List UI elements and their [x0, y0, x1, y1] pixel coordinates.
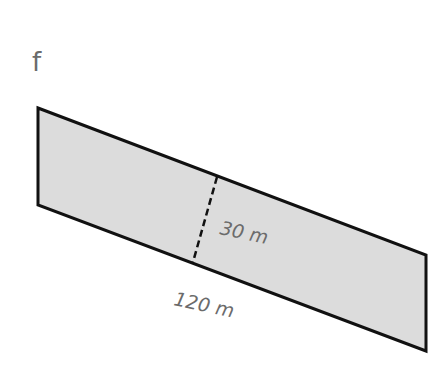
base-label: 120 m	[172, 287, 236, 321]
diagram-canvas: f 30 m 120 m	[0, 0, 445, 389]
figure-label: f	[32, 47, 42, 77]
